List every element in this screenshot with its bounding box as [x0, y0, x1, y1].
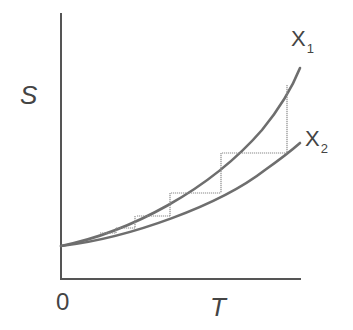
- origin-label: 0: [56, 290, 69, 314]
- curve-x1-name: X: [291, 26, 306, 51]
- curve-x2-subscript: 2: [321, 141, 328, 156]
- curve-x1-subscript: 1: [307, 41, 314, 56]
- curve-x2: [61, 143, 300, 246]
- curve-x1: [61, 68, 300, 246]
- curve-x2-name: X: [305, 126, 320, 151]
- y-axis-label: S: [20, 82, 37, 108]
- x-axis-label: T: [210, 294, 226, 320]
- curve-x1-label: X1: [291, 28, 314, 50]
- curve-x2-label: X2: [305, 128, 328, 150]
